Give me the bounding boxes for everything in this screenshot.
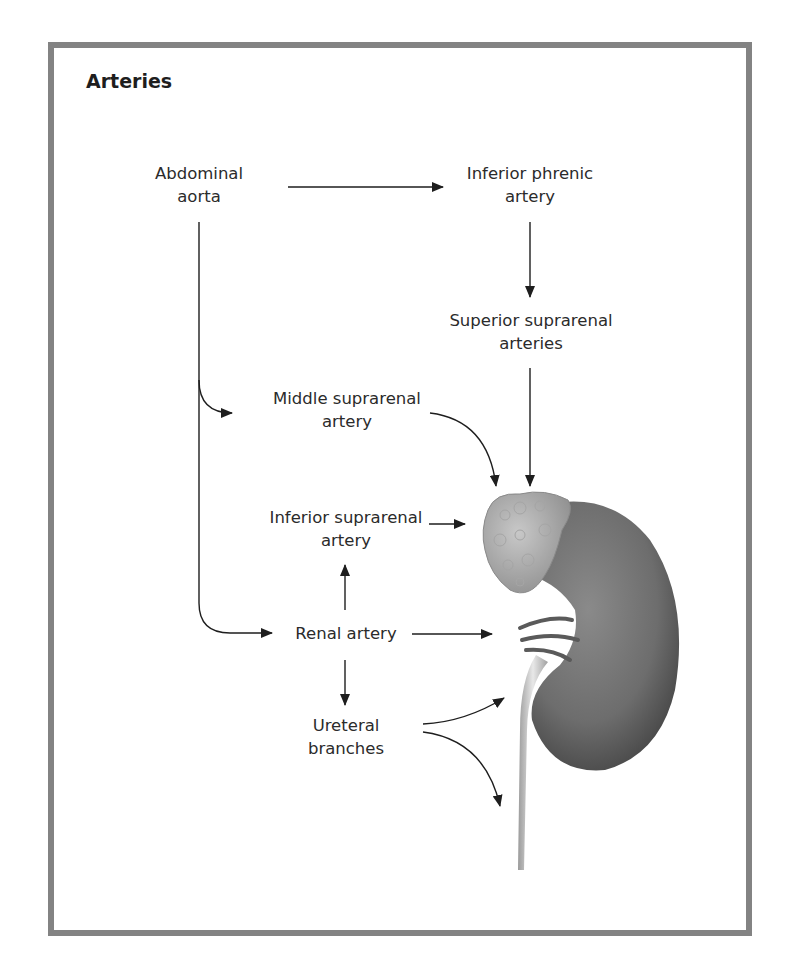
arrows bbox=[199, 187, 530, 806]
aorta-trunk-line bbox=[199, 222, 232, 413]
arrow-ureteral-up bbox=[423, 698, 504, 724]
aorta-to-renal-line bbox=[199, 380, 272, 633]
diagram-graphics bbox=[0, 0, 793, 979]
arrow-ureteral-down bbox=[423, 732, 500, 806]
arrow-middle-to-gland bbox=[430, 413, 496, 486]
kidney-illustration bbox=[483, 492, 679, 870]
